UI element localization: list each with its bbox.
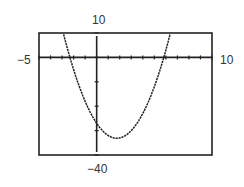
graph-window	[0, 0, 244, 187]
parabola-curve	[63, 35, 170, 138]
window-frame	[39, 33, 212, 155]
